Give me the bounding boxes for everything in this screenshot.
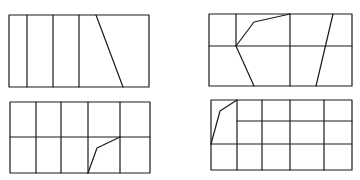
figure-bottom-left — [10, 102, 150, 173]
bent-divider-line — [211, 100, 237, 144]
bent-divider-line — [88, 137, 120, 173]
figure-bottom-right — [211, 100, 352, 170]
diagram-canvas — [0, 0, 360, 180]
divider-line — [96, 15, 123, 87]
figure-top-left — [9, 15, 149, 87]
outer-rectangle — [211, 100, 352, 170]
figure-top-right — [209, 14, 352, 86]
bent-divider-line — [236, 14, 290, 86]
divider-line — [316, 14, 333, 86]
